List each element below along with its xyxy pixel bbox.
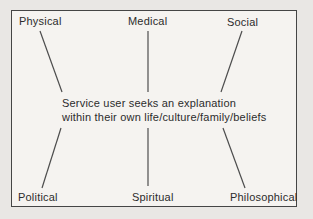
node-political: Political xyxy=(18,191,58,204)
node-medical: Medical xyxy=(128,15,167,28)
node-physical: Physical xyxy=(19,15,62,28)
center-statement-line2: within their own life/culture/family/bel… xyxy=(62,110,266,124)
node-social: Social xyxy=(227,16,258,29)
node-philosophical: Philosophical xyxy=(230,191,297,204)
center-statement-line1: Service user seeks an explanation xyxy=(62,96,266,110)
diagram-canvas: Physical Medical Social Political Spirit… xyxy=(0,0,313,219)
center-statement: Service user seeks an explanation within… xyxy=(62,96,266,124)
node-spiritual: Spiritual xyxy=(132,191,174,204)
